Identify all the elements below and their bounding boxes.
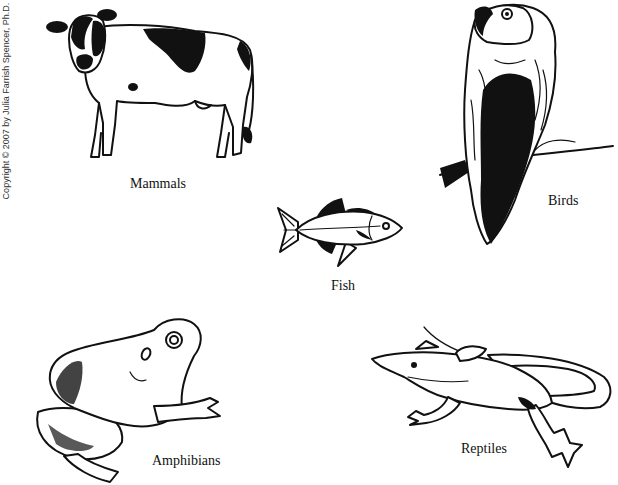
label-fish: Fish: [331, 278, 355, 294]
label-mammals: Mammals: [130, 176, 186, 192]
label-birds: Birds: [548, 193, 578, 209]
parrot-icon: [435, 0, 615, 245]
copyright-notice: Copyright © 2007 by Julia Farrish Spence…: [1, 1, 15, 201]
cow-icon: [45, 5, 260, 165]
label-reptiles: Reptiles: [461, 441, 507, 457]
fish-icon: [276, 196, 406, 268]
label-amphibians: Amphibians: [152, 453, 220, 469]
